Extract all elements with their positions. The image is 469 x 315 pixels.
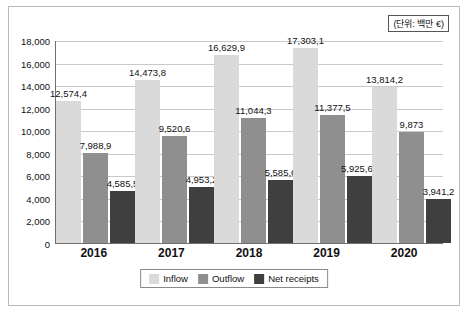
x-tick-label: 2018: [210, 246, 288, 266]
bar: 5,585,6: [268, 180, 293, 243]
bar: 3,941,2: [426, 199, 451, 243]
y-tick-label: 18,000: [21, 36, 50, 47]
legend-item[interactable]: Net receipts: [254, 273, 319, 284]
bar-value-label: 16,629,9: [208, 42, 245, 53]
bar-value-label: 5,585,6: [265, 167, 297, 178]
bar-value-label: 11,377,5: [314, 102, 350, 113]
y-tick-label: 8,000: [26, 148, 50, 159]
y-tick-label: 12,000: [21, 103, 50, 114]
bar-value-label: 13,814,2: [366, 74, 403, 85]
bar-group: 12,574,47,988,94,585,5: [56, 41, 135, 243]
bar-group: 17,303,111,377,55,925,65: [293, 41, 372, 243]
chart-legend: InflowOutflowNet receipts: [140, 269, 328, 288]
legend-swatch-icon: [254, 274, 264, 284]
x-tick-label: 2019: [288, 246, 366, 266]
bar: 12,574,4: [56, 101, 81, 243]
chart-frame: (단위: 백만 €) 12,574,47,988,94,585,514,473,…: [8, 6, 460, 306]
bar-value-label: 9,873: [400, 119, 424, 130]
x-tick-label: 2017: [133, 246, 211, 266]
bar: 17,303,1: [293, 48, 318, 243]
bar: 13,814,2: [372, 87, 397, 243]
bar: 7,988,9: [83, 153, 108, 243]
y-tick-label: 6,000: [26, 171, 50, 182]
x-tick-label: 2016: [55, 246, 133, 266]
legend-item[interactable]: Inflow: [149, 273, 188, 284]
bar: 4,585,5: [110, 191, 135, 243]
plot-area: 12,574,47,988,94,585,514,473,89,520,64,9…: [55, 41, 443, 244]
bar-value-label: 11,044,3: [235, 105, 271, 116]
bar-group: 16,629,911,044,35,585,6: [214, 41, 293, 243]
plot-canvas: 12,574,47,988,94,585,514,473,89,520,64,9…: [55, 41, 443, 244]
bar-groups: 12,574,47,988,94,585,514,473,89,520,64,9…: [56, 41, 443, 243]
y-tick-label: 2,000: [26, 216, 50, 227]
x-axis-labels: 20162017201820192020: [55, 246, 443, 266]
legend-label: Inflow: [163, 273, 188, 284]
bar-value-label: 4,585,5: [107, 178, 139, 189]
y-tick-label: 16,000: [21, 58, 50, 69]
bar-value-label: 7,988,9: [80, 140, 112, 151]
y-tick-label: 0: [45, 239, 50, 250]
legend-label: Outflow: [212, 273, 244, 284]
bar: 16,629,9: [214, 55, 239, 243]
y-tick-label: 4,000: [26, 193, 50, 204]
bar: 9,873: [399, 132, 424, 243]
bar: 4,953,2: [189, 187, 214, 243]
bar-value-label: 12,574,4: [50, 88, 87, 99]
bar-value-label: 9,520,6: [159, 123, 191, 134]
bar-value-label: 3,941,2: [423, 186, 455, 197]
unit-note: (단위: 백만 €): [388, 15, 449, 32]
bar-value-label: 17,303,1: [287, 35, 324, 46]
bar-value-label: 14,473,8: [129, 67, 166, 78]
bar-group: 14,473,89,520,64,953,2: [135, 41, 214, 243]
bar: 5,925,65: [347, 176, 372, 243]
legend-swatch-icon: [149, 274, 159, 284]
y-tick-label: 10,000: [21, 126, 50, 137]
bar: 9,520,6: [162, 136, 187, 243]
bar: 11,377,5: [320, 115, 345, 243]
bar: 11,044,3: [241, 118, 266, 243]
bar: 14,473,8: [135, 80, 160, 243]
x-tick-label: 2020: [365, 246, 443, 266]
legend-label: Net receipts: [268, 273, 319, 284]
bar-value-label: 4,953,2: [186, 174, 218, 185]
legend-swatch-icon: [198, 274, 208, 284]
bar-group: 13,814,29,8733,941,2: [372, 41, 451, 243]
legend-item[interactable]: Outflow: [198, 273, 244, 284]
y-tick-label: 14,000: [21, 81, 50, 92]
